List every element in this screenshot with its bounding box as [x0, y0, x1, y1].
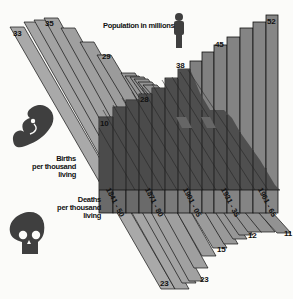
population-title: Population in millions	[103, 22, 174, 30]
death-label-23b: 23	[200, 276, 208, 284]
births-caption-line2: per thousand living	[18, 163, 76, 179]
births-caption: Births per thousand living	[18, 155, 76, 179]
death-label-15: 15	[217, 246, 225, 254]
death-label-11: 11	[284, 230, 292, 238]
birth-label-35: 35	[45, 20, 53, 28]
pop-label-45: 45	[215, 41, 223, 49]
pop-label-10: 10	[100, 120, 108, 128]
population-births-deaths-chart	[0, 0, 293, 299]
death-label-23a: 23	[160, 280, 168, 288]
birth-label-33: 33	[13, 30, 21, 38]
birth-label-29: 29	[102, 53, 110, 61]
person-icon	[174, 13, 184, 48]
deaths-caption-line2: per thousand living	[40, 204, 101, 220]
death-label-12: 12	[248, 232, 256, 240]
pop-label-28: 28	[140, 96, 148, 104]
pop-label-38: 38	[176, 62, 184, 70]
deaths-caption: Deaths per thousand living	[40, 196, 101, 220]
fetus-icon	[13, 105, 54, 147]
pop-label-52: 52	[267, 18, 275, 26]
